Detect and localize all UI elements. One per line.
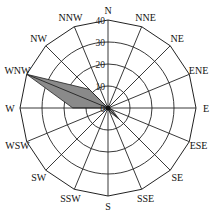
direction-label-n: N	[104, 5, 111, 16]
radial-tick-20: 20	[96, 60, 106, 70]
radial-tick-30: 30	[96, 38, 106, 48]
direction-label-ese: ESE	[190, 140, 208, 151]
direction-label-nne: NNE	[135, 12, 156, 23]
wind-rose-chart: 010203040 NNNENEENEEESESESSESSSWSWWSWWWN…	[0, 0, 217, 218]
direction-label-ssw: SSW	[60, 193, 81, 204]
spoke-sw	[46, 108, 108, 170]
figure-caption	[0, 208, 217, 218]
direction-label-w: W	[5, 103, 15, 114]
direction-label-ene: ENE	[189, 65, 208, 76]
direction-label-sw: SW	[31, 172, 47, 183]
direction-label-sse: SSE	[137, 193, 154, 204]
direction-label-wnw: WNW	[4, 65, 31, 76]
spoke-ne	[108, 46, 170, 108]
direction-label-wsw: WSW	[5, 140, 30, 151]
direction-label-nnw: NNW	[59, 12, 83, 23]
direction-label-nw: NW	[30, 33, 47, 44]
direction-label-e: E	[203, 103, 209, 114]
radial-tick-40: 40	[96, 16, 106, 26]
radial-tick-0: 0	[100, 104, 105, 114]
radial-tick-10: 10	[96, 82, 106, 92]
direction-label-se: SE	[171, 172, 183, 183]
spoke-se	[108, 108, 170, 170]
direction-label-ne: NE	[171, 33, 184, 44]
center-dot	[106, 106, 111, 111]
